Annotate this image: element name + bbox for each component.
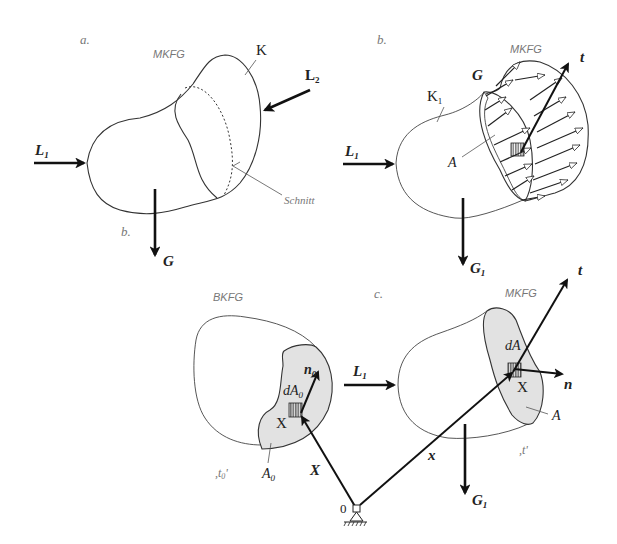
force-g1-label-c: G1 — [472, 492, 487, 510]
panel-b-label: b. — [377, 32, 387, 47]
origin-label: 0 — [340, 501, 347, 516]
normal-n-label: n — [564, 376, 572, 392]
cut-surface-back — [185, 87, 232, 195]
force-g1-label-b: G1 — [470, 260, 485, 278]
force-l1-label-c: L1 — [352, 363, 367, 381]
time-t-label: ,t' — [519, 443, 528, 457]
panel-b: b. MKFG — [343, 32, 588, 278]
time-t0-label: ,t0' — [215, 466, 228, 481]
panel-b-body-label: K1 — [427, 88, 442, 106]
origin-joint — [353, 505, 360, 512]
origin-support: 0 — [340, 501, 367, 526]
position-vector-x-current — [360, 373, 512, 505]
position-x-label: X — [309, 462, 321, 478]
position-small-x-label: x — [427, 447, 436, 463]
continuum-mechanics-diagram: a. MKFG K Schnitt L1 L2 G b. b. MKFG — [0, 0, 617, 544]
stress-vectors — [485, 62, 583, 200]
body-outline-a — [87, 55, 261, 214]
bkfg-label: BKFG — [213, 291, 243, 303]
panel-b-config-label: MKFG — [510, 43, 542, 55]
force-l2-arrow — [265, 90, 310, 110]
force-g-label-b: G — [472, 67, 483, 83]
support-triangle-icon — [350, 512, 363, 521]
force-g-label-a: G — [163, 253, 174, 269]
panel-c-reference: BKFG n0 dA0 X A0 ,t0' X — [194, 291, 356, 508]
panel-a-sub-label: b. — [121, 224, 131, 239]
panel-c-label: c. — [374, 286, 383, 301]
schnitt-label: Schnitt — [284, 194, 315, 206]
panel-c-current: c. MKFG x t n dA X A ,t' L1 G1 — [344, 262, 583, 510]
area-a-label-c: A — [551, 408, 561, 423]
element-da-label: dA — [505, 338, 521, 353]
force-l1-label-a: L1 — [34, 142, 49, 160]
body-outline-b — [396, 92, 523, 218]
force-l2-label: L2 — [305, 67, 320, 85]
traction-arrow-b — [521, 64, 568, 152]
panel-a-label: a. — [80, 32, 90, 47]
point-x-current: X — [517, 379, 528, 395]
point-x-reference: X — [276, 415, 287, 431]
cut-surface-front — [175, 94, 217, 198]
schnitt-leader — [233, 166, 282, 195]
force-l1-label-b: L1 — [344, 143, 359, 161]
panel-c-config-label: MKFG — [505, 287, 537, 299]
area-element-da0 — [289, 403, 302, 417]
panel-a: a. MKFG K Schnitt L1 L2 G b. — [34, 32, 320, 269]
panel-a-body-label: K — [256, 42, 267, 58]
area-label-b: A — [447, 155, 457, 170]
panel-a-config-label: MKFG — [153, 48, 185, 60]
area-a0-label: A0 — [261, 466, 276, 483]
traction-label-b: t — [580, 49, 585, 65]
traction-label-c: t — [578, 262, 583, 278]
